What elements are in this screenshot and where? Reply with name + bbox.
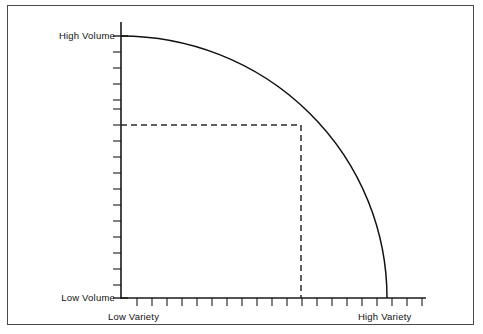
x-axis-ticks bbox=[137, 298, 422, 306]
chart-plot-area bbox=[0, 0, 483, 334]
x-axis-high-label: High Variety bbox=[358, 311, 411, 322]
figure-root: High Volume Low Volume Low Variety High … bbox=[0, 0, 483, 334]
x-axis-low-label: Low Variety bbox=[108, 311, 159, 322]
y-axis-low-label: Low Volume bbox=[61, 292, 115, 303]
tradeoff-curve bbox=[121, 36, 387, 298]
y-axis-high-label: High Volume bbox=[59, 30, 115, 41]
